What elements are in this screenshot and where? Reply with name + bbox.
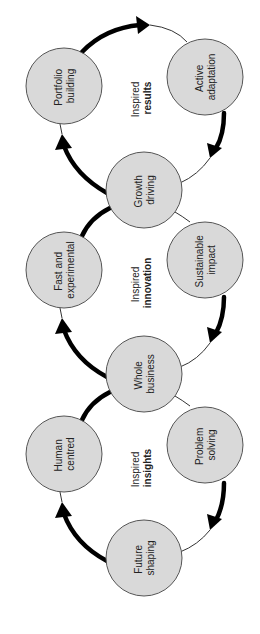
center-label-line2: insights xyxy=(142,448,153,487)
node-label-line1: Human xyxy=(53,439,64,471)
node-label-line1: Problem xyxy=(194,428,205,465)
svg-text:Portfolio building: Portfolio building xyxy=(53,66,76,105)
svg-text:Human centred: Human centred xyxy=(53,436,76,471)
arrow-portfolio-to-active xyxy=(82,25,140,52)
node-label-line2: shaping xyxy=(145,540,156,575)
arrowhead-left-innovation xyxy=(55,318,72,334)
node-fast-and-experimental: Fast and experimental xyxy=(26,232,102,308)
node-portfolio-building: Portfolio building xyxy=(26,48,102,124)
line-right-insights xyxy=(180,530,210,552)
node-label-line2: business xyxy=(145,354,156,393)
node-label-line2: adaptation xyxy=(206,54,217,101)
line-right-results xyxy=(180,158,210,183)
center-label-line2: results xyxy=(142,81,153,114)
node-label-line1: Portfolio xyxy=(53,69,64,106)
node-label-line1: Sustainable xyxy=(194,235,205,288)
node-label-line1: Fast and xyxy=(53,252,64,291)
arrow-growth-to-portfolio xyxy=(64,146,107,193)
node-label-line1: Future xyxy=(133,545,144,574)
center-label-line1: Inspired xyxy=(130,452,141,488)
center-label-line2: innovation xyxy=(142,258,153,309)
node-label-line2: experimental xyxy=(65,241,76,298)
center-label-line1: Inspired xyxy=(130,267,141,303)
node-label-line2: impact xyxy=(206,245,217,275)
svg-text:Problem solving: Problem solving xyxy=(194,425,217,465)
line-whole-to-problem xyxy=(175,396,190,406)
arrow-active-to-growth xyxy=(216,113,224,148)
node-label-line2: driving xyxy=(145,175,156,204)
node-whole-business: Whole business xyxy=(106,336,182,412)
line-left-innovation xyxy=(60,308,62,318)
svg-text:Growth driving: Growth driving xyxy=(133,172,156,207)
arrowhead-left-results xyxy=(55,134,72,150)
arrow-problem-to-future xyxy=(216,483,224,520)
inspired-cycles-diagram: Portfolio building Active adaptation Gro… xyxy=(0,0,260,634)
line-growth-to-sustainable xyxy=(175,212,190,222)
center-label-insights: Inspired insights xyxy=(130,448,153,487)
arrow-future-to-human xyxy=(64,514,107,561)
node-label-line2: building xyxy=(65,69,76,103)
line-top-results xyxy=(150,25,187,42)
node-label-line2: solving xyxy=(206,429,217,460)
node-problem-solving: Problem solving xyxy=(167,407,243,483)
line-left-results xyxy=(60,124,62,134)
node-label-line1: Active xyxy=(194,64,205,92)
center-label-line1: Inspired xyxy=(130,82,141,118)
node-sustainable-impact: Sustainable impact xyxy=(167,222,243,298)
node-label-line1: Growth xyxy=(133,175,144,207)
arrowhead-top-results xyxy=(136,16,150,34)
center-label-results: Inspired results xyxy=(130,79,153,117)
node-active-adaptation: Active adaptation xyxy=(167,39,243,115)
line-growth-to-fast xyxy=(82,208,110,236)
svg-text:Future shaping: Future shaping xyxy=(133,540,156,575)
svg-text:Whole business: Whole business xyxy=(133,354,156,393)
line-right-innovation xyxy=(180,343,210,367)
line-left-insights xyxy=(60,492,62,502)
line-whole-to-human xyxy=(82,392,110,420)
arrow-whole-to-fast xyxy=(64,330,107,377)
node-label-line1: Whole xyxy=(133,361,144,390)
node-label-line2: centred xyxy=(65,437,76,470)
node-future-shaping: Future shaping xyxy=(106,520,182,596)
arrowhead-left-insights xyxy=(55,502,72,518)
arrow-sustainable-to-whole xyxy=(216,297,224,333)
svg-text:Fast and experimental: Fast and experimental xyxy=(53,241,76,298)
center-label-innovation: Inspired innovation xyxy=(130,258,153,309)
node-growth-driving: Growth driving xyxy=(106,152,182,228)
node-human-centred: Human centred xyxy=(26,416,102,492)
